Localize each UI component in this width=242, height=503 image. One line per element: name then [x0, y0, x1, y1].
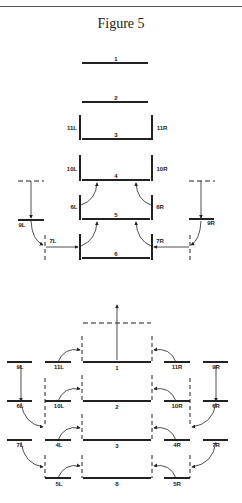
label-lower-5L: 5L [55, 481, 62, 487]
label-lower-2: 2 [115, 404, 119, 410]
label-lower-9L: 9L [16, 364, 23, 370]
arrow-6L-to-4 [81, 183, 97, 205]
label-lower-11R: 11R [172, 364, 183, 370]
label-lower-8: 8 [115, 481, 119, 487]
arrow-6L [21, 403, 43, 427]
label-lower-10R: 10R [171, 403, 183, 409]
label-level-1: 1 [114, 56, 118, 62]
label-lower-7R: 7R [212, 442, 220, 448]
arrow-10R [154, 389, 176, 402]
label-7L: 7L [49, 238, 56, 244]
arrow-4R [154, 428, 176, 441]
diagram-canvas: 1 2 3 4 5 6 11L 11R 10L 10R 6L 6R 9L 9R … [0, 0, 242, 503]
label-lower-9R: 9R [212, 364, 220, 370]
label-lower-11L: 11L [54, 364, 64, 370]
arrow-11R [154, 350, 176, 363]
label-lower-6R: 6R [212, 403, 220, 409]
arrow-9R-to-7R [191, 221, 201, 245]
label-lower-10L: 10L [54, 403, 65, 409]
label-level-4: 4 [114, 173, 118, 179]
label-lower-6L: 6L [16, 403, 23, 409]
label-level-6: 6 [114, 251, 118, 257]
label-level-2: 2 [114, 95, 118, 101]
label-10L: 10L [67, 166, 78, 172]
label-lower-4L: 4L [55, 442, 62, 448]
label-level-5: 5 [114, 212, 118, 218]
label-level-3: 3 [114, 132, 118, 138]
label-6L: 6L [70, 204, 77, 210]
label-10R: 10R [156, 166, 168, 172]
label-9L: 9L [18, 222, 25, 228]
arrow-9L-to-7L [31, 221, 43, 245]
arrow-11L [58, 350, 80, 363]
label-lower-1: 1 [115, 365, 119, 371]
label-11L: 11L [67, 125, 77, 131]
arrow-7L [21, 442, 43, 467]
label-11R: 11R [157, 125, 168, 131]
label-lower-3: 3 [115, 443, 119, 449]
label-lower-5R: 5R [173, 481, 181, 487]
label-lower-7L: 7L [16, 442, 23, 448]
label-6R: 6R [156, 204, 164, 210]
label-lower-4R: 4R [173, 442, 181, 448]
arrow-10L [58, 389, 80, 402]
arrow-5L [58, 466, 80, 479]
label-9R: 9R [207, 220, 215, 226]
arrow-5R [154, 466, 176, 479]
arrow-to-5-left [81, 222, 97, 246]
arrow-6R-to-4 [136, 183, 151, 205]
arrow-4L [58, 428, 80, 441]
arrow-to-5-right [136, 222, 151, 246]
label-7R: 7R [156, 238, 164, 244]
